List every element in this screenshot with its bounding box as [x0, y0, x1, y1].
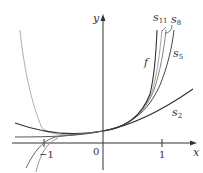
plot-area: y x −1 0 1 f s11 s8 s5 s2	[0, 0, 203, 173]
curve-left-rising	[20, 30, 103, 135]
y-axis-arrow-icon	[101, 14, 106, 21]
x-tick-label-1: 1	[159, 149, 165, 160]
label-s11: s11	[153, 11, 168, 25]
x-tick-label-neg1: −1	[39, 149, 54, 160]
x-axis-arrow-icon	[190, 141, 197, 146]
label-s8: s8	[171, 13, 181, 27]
label-s2: s2	[172, 106, 182, 120]
y-axis-label: y	[92, 12, 100, 25]
taylor-approximation-chart: y x −1 0 1 f s11 s8 s5 s2	[0, 0, 203, 173]
x-axis-label: x	[193, 146, 200, 159]
label-s5: s5	[173, 47, 183, 61]
origin-label: 0	[93, 146, 99, 157]
label-f: f	[143, 56, 150, 69]
curve-s5	[103, 30, 174, 131]
s11-pointer	[162, 27, 166, 31]
